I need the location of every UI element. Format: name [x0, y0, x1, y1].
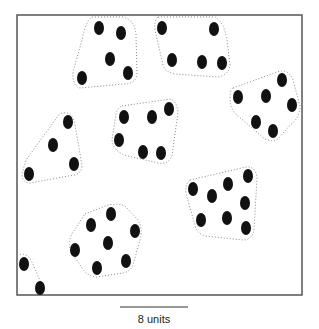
clusters-group	[17, 17, 300, 295]
point-dot	[69, 157, 79, 171]
point-dot	[222, 211, 232, 225]
point-dot	[240, 196, 250, 210]
point-dot	[94, 21, 104, 35]
point-dot	[261, 89, 271, 103]
point-dot	[70, 243, 80, 257]
point-dot	[105, 52, 115, 66]
point-dot	[116, 26, 126, 40]
point-dot	[287, 98, 297, 112]
point-dot	[188, 182, 198, 196]
point-dot	[223, 177, 233, 191]
point-dot	[197, 55, 207, 69]
point-dot	[92, 261, 102, 275]
point-dot	[130, 224, 140, 238]
point-dot	[277, 73, 287, 87]
cluster-8	[17, 254, 45, 295]
cluster-3	[112, 99, 178, 163]
point-dot	[157, 21, 167, 35]
point-dot	[86, 218, 96, 232]
point-dot	[77, 71, 87, 85]
point-dot	[24, 167, 34, 181]
cluster-6	[186, 167, 257, 240]
point-dot	[121, 254, 131, 268]
point-dot	[19, 257, 29, 271]
point-dot	[63, 115, 73, 129]
point-dot	[156, 146, 166, 160]
cluster-2	[155, 17, 230, 77]
point-dot	[106, 207, 116, 221]
point-dot	[251, 115, 261, 129]
point-dot	[167, 53, 177, 67]
point-dot	[147, 110, 157, 124]
point-dot	[35, 281, 45, 295]
point-dot	[241, 221, 251, 235]
point-dot	[119, 110, 129, 124]
point-dot	[103, 236, 113, 250]
cluster-diagram	[0, 0, 319, 329]
point-dot	[207, 189, 217, 203]
cluster-1	[73, 17, 137, 88]
cluster-7	[69, 204, 141, 277]
point-dot	[217, 56, 227, 70]
point-dot	[268, 124, 278, 138]
scale-bar-label: 8 units	[120, 313, 188, 325]
point-dot	[209, 22, 219, 36]
point-dot	[233, 90, 243, 104]
cluster-5	[230, 71, 300, 141]
point-dot	[114, 133, 124, 147]
point-dot	[196, 213, 206, 227]
cluster-4	[22, 113, 82, 183]
point-dot	[138, 145, 148, 159]
point-dot	[123, 66, 133, 80]
point-dot	[164, 102, 174, 116]
point-dot	[48, 138, 58, 152]
point-dot	[243, 169, 253, 183]
